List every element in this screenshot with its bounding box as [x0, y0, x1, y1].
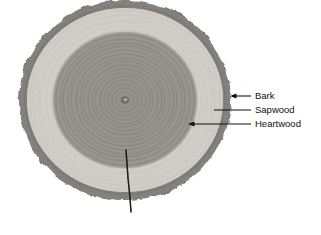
- tree-cross-section-figure: Bark Sapwood Heartwood: [0, 0, 321, 235]
- diagram-canvas: Bark Sapwood Heartwood: [0, 0, 321, 235]
- label-heartwood: Heartwood: [255, 118, 301, 129]
- label-bark: Bark: [255, 90, 275, 101]
- label-sapwood: Sapwood: [255, 104, 295, 115]
- pith-center: [121, 96, 130, 104]
